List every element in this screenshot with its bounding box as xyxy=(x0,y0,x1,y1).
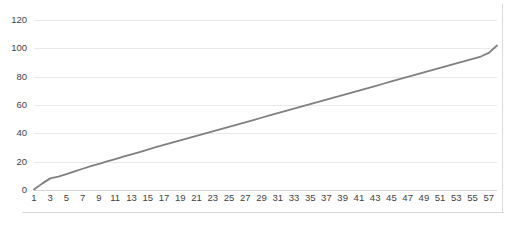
x-axis-tick-label: 53 xyxy=(451,192,462,203)
x-axis-tick-label: 5 xyxy=(64,192,69,203)
x-axis-tick-label: 25 xyxy=(224,192,235,203)
x-axis-tick-label: 51 xyxy=(435,192,446,203)
x-axis-tick-label: 49 xyxy=(419,192,430,203)
x-axis-tick-label: 29 xyxy=(256,192,267,203)
y-axis-tick-label: 40 xyxy=(16,128,27,138)
plot-area xyxy=(34,20,497,190)
x-axis-tick-label: 27 xyxy=(240,192,251,203)
x-axis-tick-label: 55 xyxy=(467,192,478,203)
x-axis-tick-label: 11 xyxy=(110,192,120,203)
series-line xyxy=(34,46,497,190)
y-axis-tick-label: 120 xyxy=(11,15,27,25)
x-axis-tick-label: 21 xyxy=(191,192,202,203)
series-line-layer xyxy=(34,20,497,190)
x-axis-tick-label: 7 xyxy=(80,192,85,203)
axis-baseline xyxy=(34,190,497,191)
x-axis-tick-label: 13 xyxy=(126,192,137,203)
y-axis-labels: 020406080100120 xyxy=(0,0,34,225)
y-axis-tick-label: 100 xyxy=(11,43,27,53)
x-axis-tick-label: 47 xyxy=(402,192,413,203)
x-axis-tick-label: 57 xyxy=(484,192,495,203)
y-axis-tick-label: 60 xyxy=(16,100,27,110)
x-axis-tick-label: 45 xyxy=(386,192,397,203)
x-axis-tick-label: 33 xyxy=(289,192,300,203)
x-axis-tick-label: 31 xyxy=(272,192,283,203)
x-axis-tick-label: 41 xyxy=(354,192,365,203)
x-axis-tick-label: 9 xyxy=(96,192,101,203)
chart-frame-right-border xyxy=(502,4,503,213)
x-axis-tick-label: 37 xyxy=(321,192,332,203)
line-chart: 020406080100120 135791113151719212325272… xyxy=(0,0,516,225)
x-axis-tick-label: 15 xyxy=(142,192,153,203)
y-axis-tick-label: 20 xyxy=(16,157,27,167)
x-axis-tick-label: 43 xyxy=(370,192,381,203)
x-axis-tick-label: 39 xyxy=(337,192,348,203)
x-axis-tick-label: 3 xyxy=(48,192,53,203)
y-axis-tick-label: 0 xyxy=(22,185,27,195)
x-axis-tick-label: 35 xyxy=(305,192,316,203)
x-axis-labels: 1357911131517192123252729313335373941434… xyxy=(34,192,497,206)
x-axis-tick-label: 1 xyxy=(31,192,36,203)
chart-frame-bottom-border xyxy=(22,212,504,213)
x-axis-tick-label: 19 xyxy=(175,192,186,203)
x-axis-tick-label: 17 xyxy=(159,192,170,203)
x-axis-tick-label: 23 xyxy=(207,192,218,203)
y-axis-tick-label: 80 xyxy=(16,72,27,82)
